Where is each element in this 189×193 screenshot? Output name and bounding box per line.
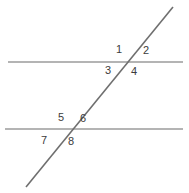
angle-label-4: 4 (131, 65, 137, 77)
geometry-figure: 12345678 (0, 0, 189, 193)
angle-label-8: 8 (68, 135, 74, 147)
angle-label-1: 1 (116, 43, 122, 55)
parallel-lines-transversal-diagram: 12345678 (0, 0, 189, 193)
angle-label-5: 5 (58, 111, 64, 123)
angle-label-3: 3 (105, 64, 111, 76)
angle-label-2: 2 (143, 44, 149, 56)
angle-label-7: 7 (41, 134, 47, 146)
transversal-line (26, 7, 173, 187)
angle-label-6: 6 (80, 112, 86, 124)
